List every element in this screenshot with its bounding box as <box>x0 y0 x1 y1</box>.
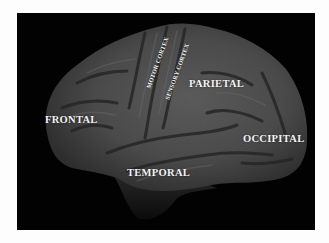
temporal-lobe-label: TEMPORAL <box>127 167 190 178</box>
page: FRONTAL MOTOR CORTEX SENSORY CORTEX PARI… <box>0 0 329 243</box>
brain-surface <box>46 23 308 191</box>
frontal-lobe-label: FRONTAL <box>45 114 98 125</box>
occipital-lobe-label: OCCIPITAL <box>243 133 304 144</box>
parietal-lobe-label: PARIETAL <box>189 78 244 89</box>
brain-diagram-frame: FRONTAL MOTOR CORTEX SENSORY CORTEX PARI… <box>17 13 315 230</box>
